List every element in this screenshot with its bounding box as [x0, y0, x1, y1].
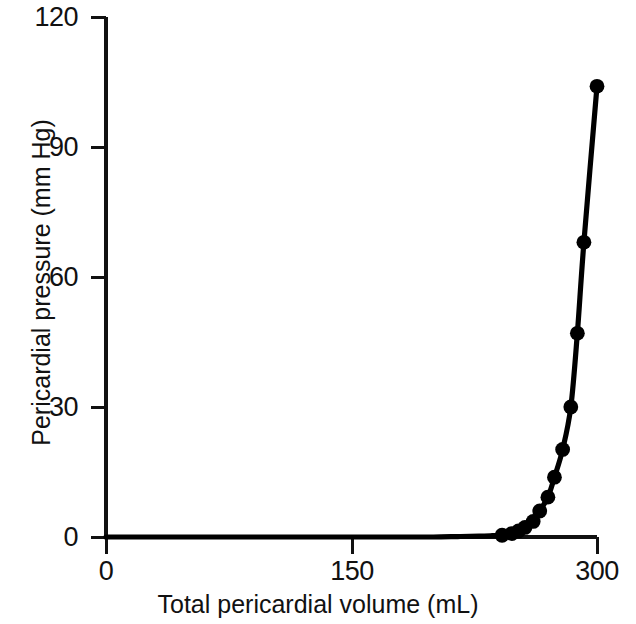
data-point-marker: [555, 442, 570, 457]
x-tick-label-0: 0: [66, 558, 146, 585]
data-point-marker: [547, 470, 562, 485]
data-point-marker: [563, 400, 578, 415]
y-tick-label-0: 0: [0, 524, 78, 551]
y-axis-title: Pericardial pressure (mm Hg): [29, 73, 54, 493]
x-tick-label-300: 300: [557, 558, 636, 585]
data-point-marker: [532, 504, 547, 519]
pericardial-pressure-volume-chart: 120 90 60 30 0 0 150 300 Pericardial pre…: [0, 0, 636, 624]
data-point-marker: [541, 490, 556, 505]
plot-area: [0, 0, 636, 624]
data-point-marker: [577, 235, 592, 250]
data-point-marker: [590, 79, 605, 94]
data-point-marker: [570, 326, 585, 341]
x-tick-label-150: 150: [312, 558, 392, 585]
y-tick-label-120: 120: [0, 4, 78, 31]
data-point-markers: [495, 79, 605, 543]
y-axis-ticks: [91, 17, 106, 537]
data-curve: [106, 86, 597, 537]
x-axis-title: Total pericardial volume (mL): [0, 592, 636, 617]
